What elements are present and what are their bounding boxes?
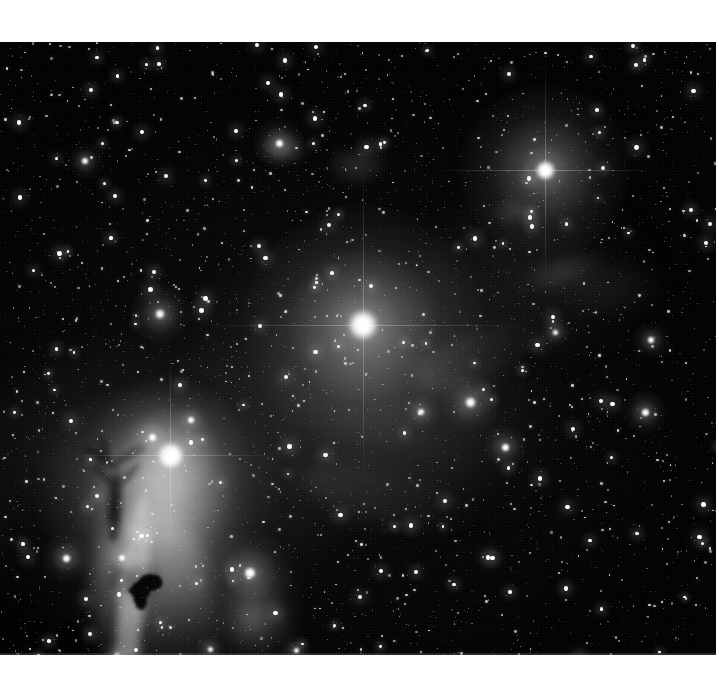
screenshot-root	[0, 0, 719, 699]
sky-background	[0, 42, 716, 655]
astrophotograph-image	[0, 42, 716, 655]
plate-bottom-edge	[0, 653, 716, 655]
